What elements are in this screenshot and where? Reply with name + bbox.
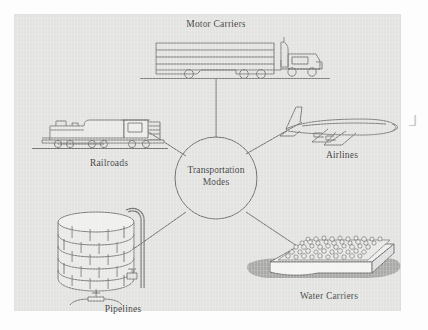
label-airlines: Airlines: [314, 150, 370, 161]
figure-page: Transportation Modes: [0, 0, 428, 330]
label-motor-carriers: Motor Carriers: [179, 19, 253, 30]
hub-label-line2: Modes: [168, 177, 264, 189]
hub-label-line1: Transportation: [168, 165, 264, 177]
label-water-carriers: Water Carriers: [286, 291, 372, 302]
label-railroads: Railroads: [78, 158, 140, 169]
locomotive-icon: [28, 110, 170, 152]
figure-panel: Transportation Modes: [14, 14, 401, 311]
storage-tank-icon: [44, 196, 174, 306]
faucet-icon: [70, 289, 122, 305]
semi-truck-icon: [140, 36, 330, 82]
label-pipelines: Pipelines: [92, 304, 154, 315]
margin-annotation: ⅃: [409, 112, 417, 130]
hub-label: Transportation Modes: [168, 165, 264, 189]
airplane-icon: [266, 102, 402, 150]
barge-icon: [244, 226, 404, 294]
